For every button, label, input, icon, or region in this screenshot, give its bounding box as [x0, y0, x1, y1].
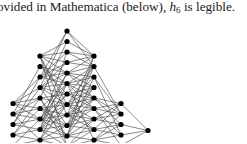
graph-node	[37, 53, 42, 58]
graph-node	[91, 64, 96, 69]
graph-edge	[40, 105, 67, 141]
graph-node	[37, 116, 42, 121]
graph-edge	[13, 109, 40, 115]
graph-edge	[13, 125, 40, 130]
graph-edge	[121, 125, 148, 131]
graph-edge	[40, 31, 67, 88]
graph-node	[118, 132, 123, 137]
graph-edge	[13, 109, 40, 136]
graph-node	[91, 95, 96, 100]
graph-node	[91, 127, 96, 132]
graph-edge	[13, 77, 40, 125]
graph-node	[91, 74, 96, 79]
graph-node	[37, 85, 42, 90]
graph-node	[64, 133, 69, 138]
graph-edge	[40, 73, 67, 130]
graph-node	[91, 106, 96, 111]
graph-edge	[121, 131, 148, 144]
graph-edge	[94, 67, 121, 115]
graph-edge	[94, 119, 121, 125]
graph-node	[145, 128, 150, 133]
graph-edge	[121, 104, 148, 131]
graph-node	[91, 85, 96, 90]
graph-edge	[40, 140, 67, 143]
graph-node	[64, 39, 69, 44]
graph-node	[64, 70, 69, 75]
graph-edge	[13, 67, 40, 115]
graph-node	[37, 137, 42, 142]
graph-node	[91, 116, 96, 121]
graph-node	[10, 132, 15, 137]
graph-node	[118, 122, 123, 127]
graph-node	[37, 64, 42, 69]
graph-edge	[94, 77, 121, 114]
graph-node	[64, 112, 69, 117]
graph-node	[37, 127, 42, 132]
graph-node	[64, 49, 69, 54]
graph-node	[37, 95, 42, 100]
graph-node	[64, 91, 69, 96]
graph-node	[64, 81, 69, 86]
graph-edges	[13, 31, 148, 143]
graph-node	[10, 122, 15, 127]
graph-node	[64, 60, 69, 65]
graph-node	[10, 101, 15, 106]
graph-node	[64, 123, 69, 128]
graph-node	[37, 106, 42, 111]
graph-node	[91, 137, 96, 142]
graph-node	[64, 28, 69, 33]
graph-node	[91, 53, 96, 58]
graph-node	[10, 111, 15, 116]
graph-node	[118, 101, 123, 106]
graph-edge	[94, 98, 121, 104]
graph-node	[118, 111, 123, 116]
graph-node	[37, 74, 42, 79]
graph-node	[64, 102, 69, 107]
graph-figure	[0, 0, 247, 143]
